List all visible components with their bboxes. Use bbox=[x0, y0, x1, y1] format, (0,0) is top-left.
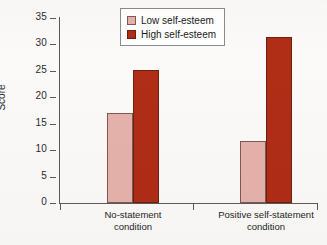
legend-swatch-icon-high bbox=[127, 30, 136, 39]
y-tick-label: 30 bbox=[35, 37, 47, 48]
legend-item-low: Low self-esteem bbox=[127, 13, 216, 27]
y-axis-title: Score bbox=[0, 84, 7, 110]
x-axis-separator-tick-1 bbox=[60, 204, 61, 210]
y-tick-label: 15 bbox=[35, 117, 47, 128]
x-category-label-line: Positive self-statement bbox=[196, 209, 327, 221]
legend-label-low: Low self-esteem bbox=[141, 15, 214, 26]
y-tick-mark bbox=[50, 177, 56, 178]
y-tick-mark bbox=[50, 44, 56, 45]
y-tick-label: 10 bbox=[35, 143, 47, 154]
y-tick-mark bbox=[50, 18, 56, 19]
x-category-label-line: condition bbox=[196, 221, 327, 233]
x-axis-separator-tick-3 bbox=[317, 204, 318, 210]
bar-chart-figure: Score 05101520253035 No-statementconditi… bbox=[0, 0, 327, 245]
y-tick-label: 25 bbox=[35, 64, 47, 75]
x-axis-separator-tick-2 bbox=[193, 204, 194, 210]
legend-label-high: High self-esteem bbox=[141, 29, 216, 40]
y-tick-mark bbox=[50, 150, 56, 151]
y-tick-mark bbox=[50, 97, 56, 98]
bar-high-group-1 bbox=[133, 70, 159, 203]
y-tick-label: 0 bbox=[41, 196, 47, 207]
bar-low-group-1 bbox=[107, 113, 133, 203]
chart-legend: Low self-esteem High self-esteem bbox=[120, 8, 225, 46]
legend-swatch-icon-low bbox=[127, 16, 136, 25]
x-category-label-line: No-statement bbox=[63, 209, 203, 221]
y-tick-mark bbox=[50, 71, 56, 72]
x-category-label-2: Positive self-statementcondition bbox=[196, 209, 327, 233]
x-category-label-1: No-statementcondition bbox=[63, 209, 203, 233]
y-tick-mark bbox=[50, 203, 56, 204]
bar-high-group-2 bbox=[266, 37, 292, 203]
x-axis-line bbox=[59, 203, 318, 204]
y-tick-mark bbox=[50, 124, 56, 125]
y-tick-label: 20 bbox=[35, 90, 47, 101]
x-category-label-line: condition bbox=[63, 221, 203, 233]
legend-item-high: High self-esteem bbox=[127, 27, 216, 41]
y-tick-label: 35 bbox=[35, 11, 47, 22]
bar-low-group-2 bbox=[240, 141, 266, 203]
y-tick-label: 5 bbox=[41, 170, 47, 181]
